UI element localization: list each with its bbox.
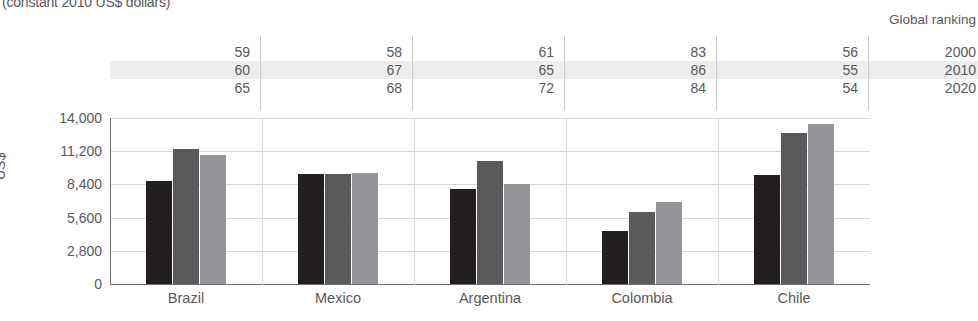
ranking-value: 83 [566, 43, 706, 61]
ranking-value: 84 [566, 79, 706, 97]
ranking-value: 68 [262, 79, 402, 97]
ranking-value: 54 [718, 79, 858, 97]
y-axis-tick-label: 0 [28, 277, 102, 291]
ranking-value: 60 [110, 61, 250, 79]
bar-brazil-2000[interactable] [146, 181, 172, 284]
bar-group [602, 118, 682, 284]
bar-mexico-2000[interactable] [298, 174, 324, 284]
bar-mexico-2010[interactable] [325, 174, 351, 284]
ranking-value: 55 [718, 61, 858, 79]
ranking-value: 65 [414, 61, 554, 79]
y-axis-tick-label: 5,600 [28, 211, 102, 225]
bar-chile-2020[interactable] [808, 124, 834, 284]
x-axis-label-chile: Chile [718, 290, 870, 306]
ranking-value: 67 [262, 61, 402, 79]
ranking-column-separator [716, 36, 717, 110]
bar-brazil-2020[interactable] [200, 155, 226, 284]
global-ranking-table: Global ranking 5958618356200060676586552… [110, 12, 978, 100]
y-axis-title: US$ [0, 153, 8, 180]
y-axis-tick-label: 8,400 [28, 177, 102, 191]
ranking-row: 65687284542020 [110, 79, 978, 97]
bar-chile-2010[interactable] [781, 133, 807, 284]
y-axis-tick-label: 14,000 [28, 111, 102, 125]
ranking-column-separator [564, 36, 565, 110]
ranking-row: 60676586552010 [110, 61, 978, 79]
ranking-value: 72 [414, 79, 554, 97]
ranking-value: 59 [110, 43, 250, 61]
ranking-year-label: 2000 [945, 43, 976, 61]
x-axis-label-argentina: Argentina [414, 290, 566, 306]
bar-colombia-2010[interactable] [629, 212, 655, 284]
x-axis-label-brazil: Brazil [110, 290, 262, 306]
bar-group [754, 118, 834, 284]
bar-argentina-2010[interactable] [477, 161, 503, 284]
ranking-year-label: 2020 [945, 79, 976, 97]
ranking-row: 59586183562000 [110, 43, 978, 61]
bar-group [298, 118, 378, 284]
x-axis-line [110, 284, 870, 285]
bar-argentina-2000[interactable] [450, 189, 476, 284]
bar-colombia-2000[interactable] [602, 231, 628, 284]
ranking-value: 56 [718, 43, 858, 61]
ranking-column-separator [260, 36, 261, 110]
ranking-value: 61 [414, 43, 554, 61]
bar-brazil-2010[interactable] [173, 149, 199, 284]
ranking-value: 65 [110, 79, 250, 97]
x-axis-label-colombia: Colombia [566, 290, 718, 306]
ranking-value: 86 [566, 61, 706, 79]
chart-page: (constant 2010 US$ dollars) Global ranki… [0, 0, 978, 321]
ranking-column-separator [868, 36, 869, 110]
bar-argentina-2020[interactable] [504, 184, 530, 284]
bar-chile-2000[interactable] [754, 175, 780, 284]
y-axis-tick-label: 11,200 [28, 144, 102, 158]
bar-chart: US$ 02,8005,6008,40011,20014,000 BrazilM… [0, 100, 978, 321]
bar-mexico-2020[interactable] [352, 173, 378, 284]
global-ranking-header: Global ranking [889, 12, 976, 27]
plot-area [110, 118, 870, 284]
ranking-column-separator [412, 36, 413, 110]
bar-group [146, 118, 226, 284]
ranking-year-label: 2010 [945, 61, 976, 79]
chart-subtitle: (constant 2010 US$ dollars) [2, 0, 170, 10]
bar-group [450, 118, 530, 284]
y-axis-tick-label: 2,800 [28, 244, 102, 258]
bar-colombia-2020[interactable] [656, 202, 682, 284]
ranking-value: 58 [262, 43, 402, 61]
x-axis-label-mexico: Mexico [262, 290, 414, 306]
